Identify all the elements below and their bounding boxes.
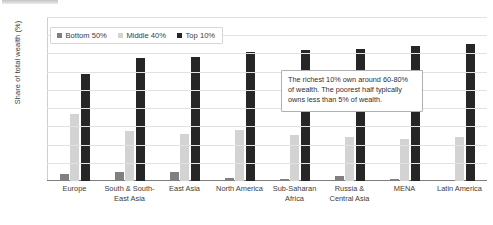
bar[interactable] xyxy=(235,130,244,181)
grid-line xyxy=(47,17,487,18)
x-axis-tick-label: MENA xyxy=(377,184,432,203)
legend-label: Bottom 50% xyxy=(66,31,107,40)
bar[interactable] xyxy=(180,134,189,181)
bar[interactable] xyxy=(225,178,234,181)
bar[interactable] xyxy=(290,135,299,181)
x-axis-tick-label: Latin America xyxy=(432,184,487,203)
legend-label: Top 10% xyxy=(186,31,216,40)
x-axis-labels: EuropeSouth & South-East AsiaEast AsiaNo… xyxy=(47,184,487,203)
bar[interactable] xyxy=(70,114,79,181)
bar[interactable] xyxy=(170,172,179,181)
legend-swatch-icon xyxy=(57,33,62,38)
bar[interactable] xyxy=(356,49,365,181)
grid-line xyxy=(47,163,487,164)
legend-item[interactable]: Middle 40% xyxy=(118,31,166,40)
bar[interactable] xyxy=(390,179,399,181)
bar[interactable] xyxy=(115,172,124,181)
chart-legend: Bottom 50%Middle 40%Top 10% xyxy=(50,27,223,44)
x-axis-tick-label: East Asia xyxy=(157,184,212,203)
cropped-header-artifact xyxy=(2,0,58,4)
bar[interactable] xyxy=(335,176,344,181)
bar[interactable] xyxy=(280,179,289,181)
x-axis-tick-label: South & South-East Asia xyxy=(102,184,157,203)
chart-page: Share of total wealth (%) 90%80%70%60%50… xyxy=(0,0,493,225)
x-axis-tick-label: Europe xyxy=(47,184,102,203)
grid-line xyxy=(47,145,487,146)
bar[interactable] xyxy=(60,174,69,181)
x-axis-tick-label: Sub-Saharan Africa xyxy=(267,184,322,203)
bar-group xyxy=(432,17,487,181)
bar[interactable] xyxy=(445,180,454,181)
x-axis-tick-label: North America xyxy=(212,184,267,203)
y-axis-title: Share of total wealth (%) xyxy=(13,0,22,138)
bar[interactable] xyxy=(125,131,134,181)
legend-swatch-icon xyxy=(177,33,182,38)
legend-item[interactable]: Top 10% xyxy=(177,31,215,40)
x-axis-tick-label: Russia & Central Asia xyxy=(322,184,377,203)
grid-line xyxy=(47,126,487,127)
annotation-callout: The richest 10% own around 60-80% of wea… xyxy=(281,70,423,112)
legend-label: Middle 40% xyxy=(126,31,166,40)
grid-line xyxy=(47,53,487,54)
legend-swatch-icon xyxy=(118,33,123,38)
legend-item[interactable]: Bottom 50% xyxy=(57,31,107,40)
bar[interactable] xyxy=(466,44,475,181)
bar[interactable] xyxy=(411,46,420,181)
